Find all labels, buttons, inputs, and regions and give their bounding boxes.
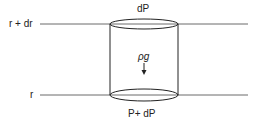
bottom-face-label: P+ dP xyxy=(128,109,156,119)
gravity-arrow-head-icon xyxy=(142,70,147,75)
body-force-label: ρg xyxy=(138,52,149,62)
top-face-label: dP xyxy=(137,4,149,14)
upper-level-label: r + dr xyxy=(9,19,33,29)
lower-level-label: r xyxy=(30,90,33,100)
